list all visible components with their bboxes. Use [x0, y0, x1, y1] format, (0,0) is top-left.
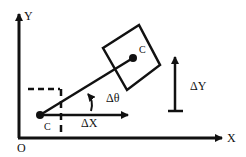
delta-y-label: ΔY — [190, 79, 207, 93]
origin-label: O — [17, 141, 26, 155]
diagram-canvas: Y X O C C ΔX Δθ ΔY — [0, 0, 246, 157]
displacement-line — [40, 58, 133, 115]
delta-theta-label: Δθ — [106, 91, 120, 105]
point-lower — [36, 111, 44, 119]
x-axis-label: X — [227, 131, 236, 145]
delta-x-label: ΔX — [81, 116, 98, 130]
point-upper-label: C — [139, 44, 146, 55]
delta-theta-arc — [88, 94, 92, 111]
y-axis-label: Y — [24, 9, 33, 23]
point-lower-label: C — [44, 121, 51, 132]
point-upper — [129, 54, 137, 62]
